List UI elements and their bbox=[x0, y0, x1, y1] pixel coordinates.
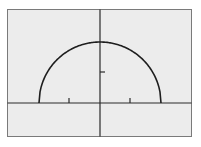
graph-screen bbox=[0, 0, 201, 147]
